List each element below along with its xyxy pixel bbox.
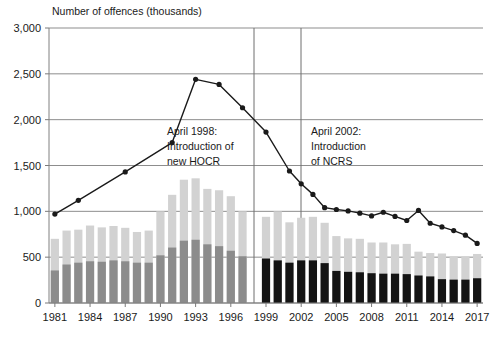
bar-lower-2010 (391, 274, 399, 303)
bar-lower-1985 (98, 262, 106, 303)
csew-point-1999 (263, 129, 268, 134)
bar-lower-1992 (180, 241, 188, 303)
csew-point-2012 (416, 208, 421, 213)
chart-svg: Number of offences (thousands) 05001,000… (0, 0, 504, 344)
csew-point-1981 (52, 211, 57, 216)
bar-lower-2001 (285, 263, 293, 303)
bar-lower-2016 (461, 280, 469, 303)
bar-lower-2002 (297, 260, 305, 303)
bar-lower-2003 (309, 260, 317, 303)
bar-lower-1991 (168, 248, 176, 303)
x-tick-label-2008: 2008 (359, 311, 383, 323)
chart-title: Number of offences (thousands) (52, 5, 202, 17)
csew-point-2004 (322, 205, 327, 210)
bar-lower-1981 (51, 270, 59, 303)
bar-lower-2012 (414, 276, 422, 304)
csew-point-2008 (369, 213, 374, 218)
csew-point-2007 (357, 211, 362, 216)
bar-lower-2013 (426, 276, 434, 303)
csew-point-2015 (451, 228, 456, 233)
x-tick-label-1999: 1999 (254, 311, 278, 323)
annotation-line: new HOCR (167, 155, 221, 167)
csew-point-1993 (193, 77, 198, 82)
annotation-line: April 1998: (167, 125, 217, 137)
csew-point-2006 (346, 208, 351, 213)
bar-lower-2017 (473, 278, 481, 303)
bar-lower-1995 (215, 246, 223, 303)
bar-lower-2009 (379, 274, 387, 303)
y-tick-label-500: 500 (23, 251, 41, 263)
bar-lower-2014 (438, 279, 446, 303)
y-tick-label-1,000: 1,000 (13, 205, 41, 217)
x-tick-label-2002: 2002 (289, 311, 313, 323)
csew-point-1995 (216, 82, 221, 87)
bar-lower-1999 (262, 259, 270, 303)
bar-lower-2007 (356, 272, 364, 303)
csew-point-2002 (299, 181, 304, 186)
x-tick-label-1993: 1993 (183, 311, 207, 323)
y-tick-label-3,000: 3,000 (13, 22, 41, 34)
y-tick-label-2,000: 2,000 (13, 114, 41, 126)
bar-lower-2000 (274, 260, 282, 303)
offences-chart: Number of offences (thousands) 05001,000… (0, 0, 504, 344)
bar-lower-1983 (74, 263, 82, 303)
csew-point-1997 (240, 105, 245, 110)
bar-lower-1993 (192, 240, 200, 303)
csew-point-2014 (439, 224, 444, 229)
csew-point-2016 (463, 233, 468, 238)
bar-lower-1982 (62, 265, 70, 304)
bar-lower-1984 (86, 261, 94, 303)
x-tick-label-1987: 1987 (113, 311, 137, 323)
x-tick-label-1990: 1990 (148, 311, 172, 323)
csew-point-1987 (123, 169, 128, 174)
bar-lower-1989 (145, 263, 153, 303)
bar-lower-1990 (156, 255, 164, 303)
bar-lower-1997 (238, 256, 246, 303)
bar-lower-1996 (227, 251, 235, 303)
y-tick-label-1,500: 1,500 (13, 160, 41, 172)
bar-lower-2004 (321, 263, 329, 303)
bar-lower-2011 (403, 274, 411, 303)
csew-point-2013 (428, 221, 433, 226)
bar-lower-2005 (332, 271, 340, 303)
bar-lower-2006 (344, 272, 352, 303)
bar-lower-2008 (367, 273, 375, 303)
bar-lower-1986 (109, 260, 117, 303)
bar-lower-1994 (203, 244, 211, 303)
bar-lower-1987 (121, 261, 129, 303)
annotation-line: April 2002: (311, 125, 361, 137)
x-tick-label-1981: 1981 (43, 311, 67, 323)
y-tick-label-2,500: 2,500 (13, 68, 41, 80)
csew-point-2001 (287, 168, 292, 173)
y-tick-label-0: 0 (35, 297, 41, 309)
x-tick-label-2017: 2017 (465, 311, 489, 323)
csew-point-2017 (475, 241, 480, 246)
x-tick-label-1984: 1984 (78, 311, 102, 323)
csew-point-2009 (381, 210, 386, 215)
csew-point-2003 (310, 192, 315, 197)
annotation-line: of NCRS (311, 155, 352, 167)
csew-point-1983 (76, 198, 81, 203)
x-tick-label-2005: 2005 (324, 311, 348, 323)
annotation-line: Introduction (311, 140, 366, 152)
annotation-line: Introduction of (167, 140, 234, 152)
csew-point-2010 (392, 214, 397, 219)
csew-point-2005 (334, 207, 339, 212)
bar-lower-1988 (133, 263, 141, 303)
x-tick-label-2014: 2014 (430, 311, 454, 323)
x-tick-label-1996: 1996 (219, 311, 243, 323)
x-tick-label-2011: 2011 (395, 311, 419, 323)
bar-lower-2015 (450, 280, 458, 303)
csew-point-2011 (404, 218, 409, 223)
